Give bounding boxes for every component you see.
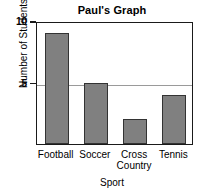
y-tick-label: 5 bbox=[0, 79, 27, 89]
x-tick-label: Soccer bbox=[75, 149, 114, 160]
bar bbox=[162, 95, 186, 144]
x-tick-label: Tennis bbox=[154, 149, 193, 160]
chart-title: Paul's Graph bbox=[30, 4, 194, 17]
y-tick bbox=[30, 21, 36, 23]
x-tick-label: Cross Country bbox=[115, 149, 154, 171]
bar bbox=[45, 33, 69, 144]
bar-chart: Paul's Graph Number of Students 510 Spor… bbox=[0, 0, 202, 194]
x-axis-label: Sport bbox=[30, 177, 194, 188]
y-tick bbox=[30, 83, 36, 85]
plot-inner bbox=[37, 23, 192, 144]
plot-area bbox=[36, 22, 193, 145]
y-tick-label: 10 bbox=[0, 17, 27, 27]
x-tick-label: Football bbox=[36, 149, 75, 160]
bar bbox=[84, 83, 108, 145]
bar bbox=[123, 119, 147, 144]
